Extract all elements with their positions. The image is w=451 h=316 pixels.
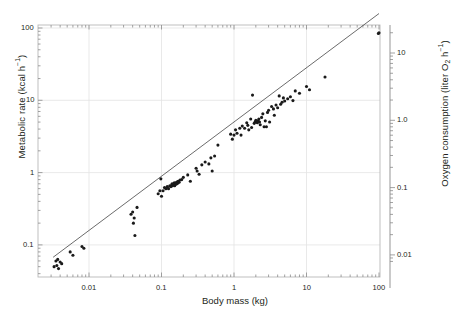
data-point xyxy=(247,128,250,131)
data-point xyxy=(159,177,162,180)
data-point xyxy=(268,121,271,124)
data-point xyxy=(249,118,252,121)
data-point xyxy=(229,133,232,136)
data-point xyxy=(257,118,260,121)
data-point xyxy=(245,121,248,124)
data-point xyxy=(267,109,270,112)
data-point xyxy=(235,132,238,135)
data-point xyxy=(239,134,242,137)
data-point xyxy=(286,97,289,100)
data-point xyxy=(186,173,189,176)
data-point xyxy=(167,187,170,190)
data-point xyxy=(196,170,199,173)
data-point xyxy=(246,124,249,127)
data-point xyxy=(55,264,58,267)
data-point xyxy=(136,206,139,209)
data-point xyxy=(232,134,235,137)
data-point xyxy=(278,94,281,97)
y-tick-label: 10 xyxy=(26,95,34,104)
x-tick-label: 0.1 xyxy=(156,283,167,292)
x-tick-label: 0.01 xyxy=(82,283,97,292)
y-tick-label: 0.1 xyxy=(23,240,34,249)
data-point xyxy=(251,94,254,97)
data-point xyxy=(216,144,219,147)
data-point xyxy=(204,160,207,163)
data-point xyxy=(289,95,292,98)
data-point xyxy=(211,170,214,173)
y-right-tick-label: 1.0 xyxy=(397,115,408,124)
data-point xyxy=(132,222,135,225)
data-point xyxy=(298,92,301,95)
data-point xyxy=(209,156,212,159)
data-point xyxy=(294,89,297,92)
data-point xyxy=(160,195,163,198)
x-tick-label: 10 xyxy=(303,283,311,292)
data-point xyxy=(283,99,286,102)
data-point xyxy=(234,128,237,131)
x-tick-label: 100 xyxy=(373,283,386,292)
data-point xyxy=(274,103,277,106)
data-point xyxy=(133,234,136,237)
data-point xyxy=(71,254,74,257)
data-point xyxy=(82,247,85,250)
y-tick-label: 1 xyxy=(30,168,34,177)
data-point xyxy=(258,121,261,124)
data-point xyxy=(282,96,285,99)
data-point xyxy=(158,189,161,192)
data-point xyxy=(241,125,244,128)
data-point xyxy=(200,163,203,166)
y-right-tick-label: 0.01 xyxy=(397,250,412,259)
data-point xyxy=(281,101,284,104)
data-point xyxy=(291,99,294,102)
y-axis-left-label: Metabolic rate (kcal h−1) xyxy=(16,17,27,197)
data-point xyxy=(133,217,136,220)
data-point xyxy=(305,85,308,88)
data-point xyxy=(198,173,201,176)
data-point xyxy=(161,189,164,192)
data-point xyxy=(250,126,253,129)
data-point xyxy=(189,180,192,183)
y-right-tick-label: 0.1 xyxy=(397,183,408,192)
data-point xyxy=(265,125,268,128)
data-point xyxy=(261,112,264,115)
data-point xyxy=(207,162,210,165)
data-point xyxy=(231,138,234,141)
data-point xyxy=(182,176,185,179)
data-point xyxy=(157,192,160,195)
y-right-tick-label: 10 xyxy=(397,48,405,57)
data-point xyxy=(195,167,198,170)
data-point xyxy=(238,127,241,130)
y-axis-right-label: Oxygen consumption (liter O2 h−1) xyxy=(439,0,450,229)
data-point xyxy=(377,31,380,34)
data-point xyxy=(69,250,72,253)
data-point xyxy=(259,123,262,126)
x-axis-label: Body mass (kg) xyxy=(140,295,330,306)
y-tick-label: 100 xyxy=(21,23,34,32)
data-point xyxy=(56,258,59,261)
data-point xyxy=(264,119,267,122)
data-point xyxy=(57,267,60,270)
data-point xyxy=(323,75,326,78)
data-point xyxy=(276,106,279,109)
data-point xyxy=(273,114,276,117)
data-point xyxy=(243,127,246,130)
data-point xyxy=(60,262,63,265)
data-point xyxy=(213,154,216,157)
x-tick-label: 1 xyxy=(232,283,236,292)
data-point xyxy=(272,107,275,110)
data-point xyxy=(131,210,134,213)
data-point xyxy=(260,116,263,119)
data-point xyxy=(53,265,56,268)
data-point xyxy=(308,88,311,91)
